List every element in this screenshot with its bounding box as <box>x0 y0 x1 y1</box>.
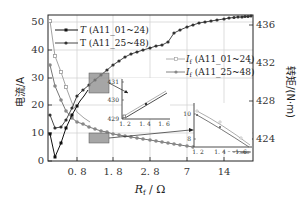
svg-text:40: 40 <box>31 44 44 55</box>
svg-text:429: 429 <box>108 115 120 122</box>
svg-text:50: 50 <box>31 16 44 27</box>
svg-text:436: 436 <box>256 19 275 30</box>
svg-text:If (A11_01~24): If (A11_01~24) <box>185 54 255 65</box>
svg-text:1. 2: 1. 2 <box>192 148 204 155</box>
svg-text:2. 8: 2. 8 <box>140 166 159 177</box>
svg-text:1. 4: 1. 4 <box>139 120 151 127</box>
series-if-01-24 <box>50 21 90 122</box>
svg-text:1. 4: 1. 4 <box>214 148 226 155</box>
svg-text:0: 0 <box>38 155 44 166</box>
svg-text:431: 431 <box>108 78 119 85</box>
svg-text:14: 14 <box>218 166 231 177</box>
svg-text:30: 30 <box>31 72 44 83</box>
svg-text:424: 424 <box>256 133 275 144</box>
left-axis-labels: 0 10 20 30 40 50 <box>31 16 44 166</box>
svg-text:428: 428 <box>256 95 275 106</box>
svg-text:If (A11_25~48): If (A11_25~48) <box>185 67 255 78</box>
right-axis-labels: 436 432 428 424 <box>256 19 275 144</box>
zoom-region-current <box>89 133 109 143</box>
svg-text:T (A11_01~24): T (A11_01~24) <box>80 25 149 36</box>
svg-text:1. 6: 1. 6 <box>158 120 170 127</box>
left-axis-title: 电流/A <box>14 77 26 107</box>
right-axis-title: 转矩/(N·m) <box>285 66 297 118</box>
svg-text:430: 430 <box>108 96 120 103</box>
svg-text:1. 8: 1. 8 <box>103 166 122 177</box>
svg-text:8: 8 <box>187 135 191 142</box>
svg-text:7: 7 <box>184 166 190 177</box>
legend-current: If (A11_01~24) If (A11_25~48) <box>166 54 255 78</box>
x-axis-title: Rf / Ω <box>134 183 166 197</box>
svg-text:20: 20 <box>31 99 44 110</box>
chart: 0 10 20 30 40 50 436 432 428 424 0. 8 1.… <box>0 0 304 202</box>
inset-torque: 431 430 429 1. 2 1. 4 1. 6 <box>108 78 170 127</box>
svg-text:10: 10 <box>31 127 44 138</box>
x-axis-labels: 0. 8 1. 8 2. 8 7 14 <box>67 166 230 177</box>
markers-t-01-24 <box>49 105 79 159</box>
legend-torque: T (A11_01~24) T (A11_25~48) <box>55 25 149 49</box>
svg-text:432: 432 <box>256 57 275 68</box>
zoom-region-torque <box>89 73 109 93</box>
svg-text:10: 10 <box>183 110 191 117</box>
svg-text:T (A11_25~48): T (A11_25~48) <box>80 38 149 49</box>
svg-text:1. 2: 1. 2 <box>119 120 131 127</box>
svg-text:1. 6: 1. 6 <box>235 148 247 155</box>
svg-text:0. 8: 0. 8 <box>67 166 86 177</box>
